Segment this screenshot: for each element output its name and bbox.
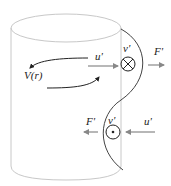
- force-label-upper: F': [153, 45, 164, 57]
- v-prime-label-upper: v': [123, 42, 131, 54]
- cylinder-bottom: [11, 166, 121, 180]
- u-prime-label-lower: u': [144, 115, 153, 127]
- flow-arrow-lower: [47, 77, 99, 88]
- cylinder-top: [11, 14, 121, 42]
- into-page-icon: [121, 57, 135, 71]
- v-prime-label-lower: v': [108, 114, 116, 126]
- flow-arrow-upper: [30, 58, 88, 68]
- out-of-page-icon: [106, 125, 120, 139]
- force-label-lower: F': [85, 115, 96, 127]
- velocity-profile-label: V(r): [24, 69, 43, 82]
- u-prime-label-upper: u': [95, 50, 104, 62]
- cylinder-diagram: V(r) u' v' F' F' v' u': [0, 0, 171, 186]
